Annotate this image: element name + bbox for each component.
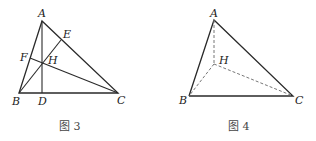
label-h: H	[47, 54, 58, 67]
triangle-abc	[189, 20, 293, 96]
geometry-figures: A B C D E F H 图 3 A B C H 图 4	[0, 0, 316, 141]
caption-figure-4: 图 4	[228, 120, 250, 133]
label-c: C	[295, 94, 304, 107]
figure-4: A B C H 图 4	[178, 7, 304, 133]
label-f: F	[19, 51, 28, 64]
altitude-cf	[30, 58, 118, 93]
label-c: C	[117, 94, 126, 107]
dashed-bh	[189, 64, 214, 96]
label-a: A	[37, 7, 46, 20]
label-b: B	[178, 94, 187, 107]
label-a: A	[209, 7, 218, 20]
label-h: H	[218, 54, 229, 67]
label-b: B	[11, 95, 20, 108]
dashed-ch	[214, 64, 293, 96]
caption-figure-3: 图 3	[59, 120, 81, 133]
label-d: D	[37, 95, 47, 108]
figure-3: A B C D E F H 图 3	[11, 7, 126, 133]
label-e: E	[62, 28, 71, 41]
